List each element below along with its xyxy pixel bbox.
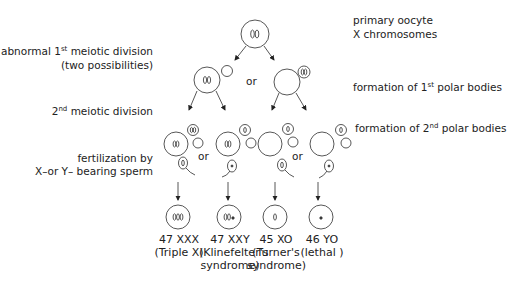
sperm-x-1 <box>179 157 196 175</box>
label-primary-oocyte: primary oocyte <box>353 14 433 27</box>
zygote-yo <box>309 205 333 229</box>
syndrome-name-2: syndrome) <box>247 259 305 272</box>
second-division-cell-4 <box>310 125 351 157</box>
label-or-right: or <box>292 150 303 163</box>
second-division-cell-2 <box>216 125 256 157</box>
primary-oocyte <box>241 20 269 48</box>
label-or-left: or <box>198 150 209 163</box>
sperm-y-2 <box>222 160 237 177</box>
zygote-xxx <box>166 205 190 229</box>
first-division-right-cell <box>274 66 310 95</box>
first-division-left-cell <box>194 66 233 94</box>
label-second-polar-bodies: formation of 2nd polar bodies <box>355 122 506 135</box>
label-two-possibilities: (two possibilities) <box>61 59 153 72</box>
karyotype: 46 YO <box>294 233 350 246</box>
zygote-xo <box>263 205 287 229</box>
sperm-y-4 <box>319 160 334 178</box>
label-or-first: or <box>246 75 257 88</box>
label-first-polar-bodies: formation of 1st polar bodies <box>353 81 502 94</box>
zygote-xxy <box>217 205 241 229</box>
label-abnormal-first-division: abnormal 1st meiotic division <box>1 45 153 58</box>
outcome-yo: 46 YO (lethal ) <box>294 233 350 259</box>
syndrome-name: (lethal ) <box>294 246 350 259</box>
label-x-chromosomes: X chromosomes <box>353 28 437 41</box>
label-fertilization-line1: fertilization by <box>77 152 153 165</box>
label-second-division: 2nd meiotic division <box>52 105 153 118</box>
label-fertilization-line2: X–or Y– bearing sperm <box>35 165 153 178</box>
